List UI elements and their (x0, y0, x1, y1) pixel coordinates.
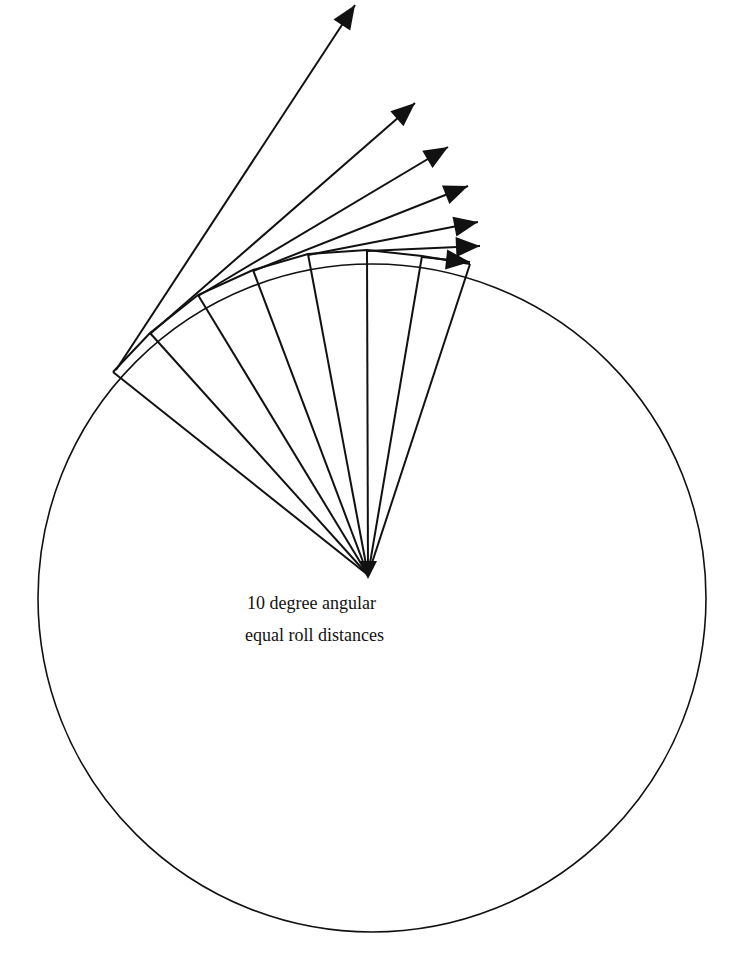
tangent-arrows (116, 5, 480, 370)
rim-segment (113, 250, 470, 372)
arrowhead-icon (456, 237, 480, 257)
radial-spoke (367, 250, 368, 575)
arrowhead-icon (453, 217, 478, 237)
radial-spoke (368, 264, 470, 575)
roll-distance-diagram (0, 0, 740, 969)
tangent-arrow (198, 147, 448, 296)
caption-line-1: 10 degree angular (247, 592, 376, 614)
radial-spoke (368, 256, 422, 575)
caption-line-2: equal roll distances (245, 624, 384, 646)
radial-spoke (150, 333, 368, 575)
arrowhead-icon (390, 103, 415, 126)
arrowhead-icon (442, 186, 468, 205)
arrowhead-icon (422, 147, 448, 168)
arrowhead-icon (333, 5, 355, 31)
tangent-arrow (150, 103, 415, 334)
radial-spokes (113, 250, 470, 575)
